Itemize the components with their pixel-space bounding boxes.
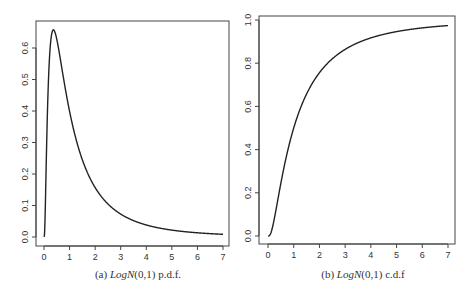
x-tick-label: 5	[394, 250, 399, 260]
y-tick-label: 0.3	[20, 136, 30, 149]
x-tick-label: 1	[67, 252, 72, 262]
plot-frame	[36, 21, 229, 246]
y-tick-label: 0.4	[20, 105, 30, 118]
x-tick-label: 4	[368, 250, 373, 260]
y-tick-label: 0.8	[243, 57, 253, 70]
caption-label: (a)	[95, 268, 107, 280]
y-tick-label: 1.0	[243, 14, 253, 27]
plot-frame	[259, 16, 455, 244]
y-tick-label: 0.6	[20, 42, 30, 55]
y-tick-label: 0.0	[20, 231, 30, 244]
caption-params: (0,1)	[361, 268, 382, 280]
y-tick-label: 0.4	[243, 143, 253, 156]
y-tick-label: 0.1	[20, 199, 30, 212]
x-tick-label: 0	[41, 252, 46, 262]
cdf-plot: 012345670.00.20.40.60.81.0	[243, 14, 455, 260]
x-tick-label: 4	[144, 252, 149, 262]
caption-params: (0,1)	[134, 268, 155, 280]
x-tick-label: 3	[118, 252, 123, 262]
series-line	[268, 26, 448, 236]
x-tick-label: 6	[420, 250, 425, 260]
pdf-plot: 012345670.00.10.20.30.40.50.6	[20, 21, 229, 262]
caption-dist: LogN	[337, 268, 361, 280]
x-tick-label: 1	[291, 250, 296, 260]
x-tick-label: 6	[195, 252, 200, 262]
caption-label: (b)	[321, 268, 334, 280]
caption-dist: LogN	[110, 268, 134, 280]
x-tick-label: 2	[93, 252, 98, 262]
caption-pdf: (a) LogN(0,1) p.d.f.	[95, 268, 181, 280]
x-tick-label: 2	[317, 250, 322, 260]
x-tick-label: 5	[169, 252, 174, 262]
figure: 012345670.00.10.20.30.40.50.6012345670.0…	[0, 0, 472, 300]
y-tick-label: 0.2	[20, 168, 30, 181]
caption-suffix: p.d.f.	[158, 268, 181, 280]
y-tick-label: 0.6	[243, 100, 253, 113]
caption-cdf: (b) LogN(0,1) c.d.f	[321, 268, 404, 280]
caption-suffix: c.d.f	[385, 268, 405, 280]
series-line	[44, 30, 223, 237]
x-tick-label: 0	[265, 250, 270, 260]
x-tick-label: 3	[343, 250, 348, 260]
y-tick-label: 0.5	[20, 73, 30, 86]
y-tick-label: 0.2	[243, 187, 253, 200]
y-tick-label: 0.0	[243, 230, 253, 243]
x-tick-label: 7	[445, 250, 450, 260]
x-tick-label: 7	[220, 252, 225, 262]
